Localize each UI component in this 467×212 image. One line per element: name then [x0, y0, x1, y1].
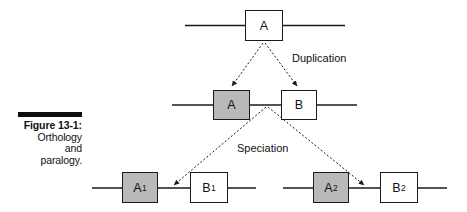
caption-line-3: paralogy.	[18, 155, 82, 167]
figure-caption: Figure 13-1: Orthology and paralogy.	[18, 112, 90, 212]
duplication-arrow-to-a	[232, 43, 263, 86]
gene-label: A	[324, 181, 332, 195]
caption-text: Figure 13-1: Orthology and paralogy.	[18, 117, 82, 166]
gene-box-b-duplicate: B	[281, 90, 317, 120]
gene-subscript: 2	[401, 183, 406, 193]
duplication-arrow-to-b	[265, 43, 297, 86]
gene-label: B	[392, 181, 400, 195]
gene-subscript: 2	[333, 183, 338, 193]
gene-label: B	[295, 98, 303, 112]
gene-box-a1: A1	[122, 172, 158, 203]
gene-subscript: 1	[142, 183, 147, 193]
gene-subscript: 1	[211, 183, 216, 193]
gene-box-a-ancestral: A	[245, 10, 283, 41]
caption-title: Figure 13-1:	[18, 120, 82, 132]
gene-label: B	[202, 181, 210, 195]
gene-box-b2: B2	[380, 172, 418, 203]
gene-box-a-duplicate: A	[213, 90, 250, 120]
figure-container: Figure 13-1: Orthology and paralogy. A A…	[0, 0, 467, 212]
gene-box-a2: A2	[313, 172, 349, 203]
gene-label: A	[133, 181, 141, 195]
gene-label: A	[260, 19, 268, 33]
gene-label: A	[227, 98, 235, 112]
label-speciation: Speciation	[237, 142, 288, 154]
gene-box-b1: B1	[190, 172, 228, 203]
label-duplication: Duplication	[292, 52, 346, 64]
